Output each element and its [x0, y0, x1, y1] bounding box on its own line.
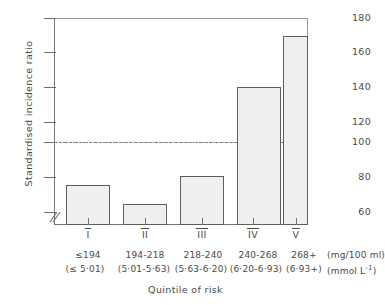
y-tick-80 — [44, 177, 56, 178]
y-tick-label-180: 180 — [331, 12, 371, 23]
y-tick-label-120: 120 — [331, 116, 371, 127]
x-range-mmol-I: (≤ 5·01) — [57, 264, 113, 274]
x-category-III: III — [182, 229, 222, 240]
y-tick-label-140: 140 — [331, 81, 371, 92]
bar-quintile-V — [283, 36, 308, 225]
x-tick-V — [296, 218, 297, 225]
x-range-mg-I: ≤194 — [60, 250, 116, 260]
x-unit-mmol-prefix: (mmol L — [327, 266, 365, 276]
x-tick-I — [88, 218, 89, 225]
x-tick-III — [202, 218, 203, 225]
x-axis-title: Quintile of risk — [0, 284, 371, 295]
x-category-II: II — [125, 229, 165, 240]
y-tick-label-100: 100 — [331, 136, 371, 147]
y-tick-160 — [44, 52, 56, 53]
x-range-mg-V: 268+ — [281, 250, 327, 260]
x-range-mg-IV: 240-268 — [227, 250, 289, 260]
x-category-label-IV: IV — [247, 228, 259, 240]
y-tick-120 — [44, 122, 56, 123]
x-category-label-V: V — [292, 228, 301, 240]
x-category-label-II: II — [141, 228, 149, 240]
bar-quintile-IV — [237, 87, 281, 225]
x-unit-mmol-exponent: -1 — [365, 264, 372, 272]
x-unit-mg: (mg/100 ml) — [327, 250, 385, 260]
x-category-label-I: I — [85, 228, 90, 240]
y-tick-label-80: 80 — [331, 171, 371, 182]
x-range-mmol-V: (6·93+) — [280, 264, 328, 274]
y-axis-title: Standardised incidence ratio — [23, 14, 34, 214]
y-tick-60 — [44, 212, 56, 213]
x-category-I: I — [68, 229, 108, 240]
y-tick-180 — [44, 18, 56, 19]
y-tick-140 — [44, 87, 56, 88]
x-unit-mmol-suffix: ) — [373, 266, 377, 276]
x-category-label-III: III — [196, 228, 207, 240]
y-tick-label-60: 60 — [331, 206, 371, 217]
x-tick-II — [145, 218, 146, 225]
x-unit-mmol: (mmol L-1) — [327, 264, 376, 276]
x-range-mg-III: 218-240 — [172, 250, 234, 260]
x-tick-IV — [253, 218, 254, 225]
x-category-IV: IV — [233, 229, 273, 240]
x-category-V: V — [276, 229, 316, 240]
x-range-mg-II: 194-218 — [114, 250, 176, 260]
y-tick-label-160: 160 — [331, 46, 371, 57]
